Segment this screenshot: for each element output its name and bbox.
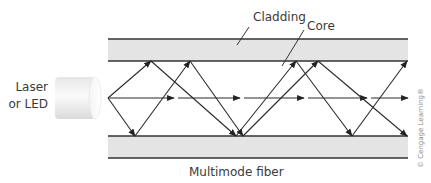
fiber-caption: Multimode fiber <box>189 166 284 178</box>
core-label: Core <box>307 20 335 32</box>
multimode-fiber-diagram: Cladding Core Laser or LED Multimode fib… <box>0 0 431 183</box>
source-label-line1: Laser <box>0 81 48 93</box>
copyright-credit: © Cengage Learning® <box>418 88 425 168</box>
laser-led-source <box>55 77 101 119</box>
light-rays <box>108 61 408 136</box>
cladding-label: Cladding <box>253 11 306 23</box>
bottom-cladding <box>108 136 408 158</box>
top-cladding <box>108 39 408 61</box>
diagram-canvas <box>0 0 431 183</box>
source-label-line2: or LED <box>0 98 48 110</box>
